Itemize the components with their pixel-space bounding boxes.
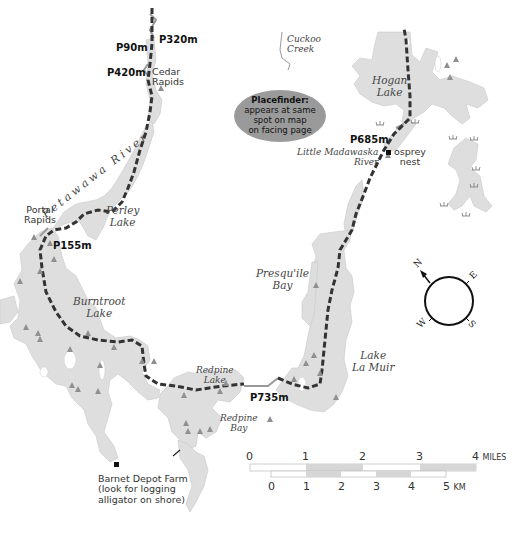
- portage-label-p685: P685m: [350, 134, 389, 145]
- cedar-rapids-label: CedarRapids: [152, 67, 184, 88]
- scale-unit-miles: MILES: [483, 453, 507, 462]
- scale-bar: [250, 464, 476, 477]
- scale-km-1: 1: [303, 480, 310, 493]
- scale-mile-1: 1: [302, 450, 309, 463]
- portage-label-p420: P420m: [107, 67, 146, 78]
- lake-la-muir-label: LakeLa Muir: [352, 350, 394, 373]
- placefinder-badge: Placefinder: appears at same spot on map…: [234, 90, 326, 142]
- portage-label-p90: P90m: [116, 42, 148, 53]
- scale-mile-2: 2: [359, 450, 366, 463]
- hogan-lake-label: HoganLake: [372, 75, 407, 98]
- scale-km-4: 4: [408, 480, 415, 493]
- scale-km-0: 0: [268, 480, 275, 493]
- barnet-depot-label: Barnet Depot Farm(look for loggingalliga…: [98, 474, 188, 505]
- cuckoo-creek-label: CuckooCreek: [287, 35, 321, 55]
- scale-mile-3: 3: [416, 450, 423, 463]
- little-madawaska-label: Little MadawaskaRiver: [297, 148, 378, 168]
- portage-label-p320: P320m: [159, 34, 198, 45]
- scale-km-2: 2: [338, 480, 345, 493]
- river-channel-north: [344, 180, 364, 236]
- dam-icon: [173, 450, 180, 456]
- portage-label-p735: P735m: [250, 392, 289, 403]
- scale-km-3: 3: [373, 480, 380, 493]
- scale-mile-0: 0: [246, 450, 253, 463]
- scale-km-5: 5 KM: [443, 480, 466, 493]
- osprey-nest-label: ospreynest: [394, 147, 426, 168]
- scale-unit-km: KM: [454, 483, 466, 492]
- scale-mile-4: 4 MILES: [472, 450, 506, 463]
- perley-lake-label: PerleyLake: [106, 205, 139, 228]
- placefinder-line: on facing page: [234, 126, 326, 136]
- barnet-depot-marker: [114, 462, 119, 467]
- compass-rose-icon: [420, 270, 473, 325]
- redpine-lake-label: RedpineLake: [196, 366, 234, 386]
- burntroot-lake-label: BurntrootLake: [73, 296, 125, 319]
- presquile-bay-label: Presqu'ileBay: [256, 268, 309, 291]
- portage-label-p155: P155m: [53, 240, 92, 251]
- east-marsh-waters: [448, 138, 492, 212]
- redpine-bay-label: RedpineBay: [220, 414, 258, 434]
- osprey-nest-marker: [386, 150, 391, 155]
- burntroot-west-arm: [0, 296, 18, 324]
